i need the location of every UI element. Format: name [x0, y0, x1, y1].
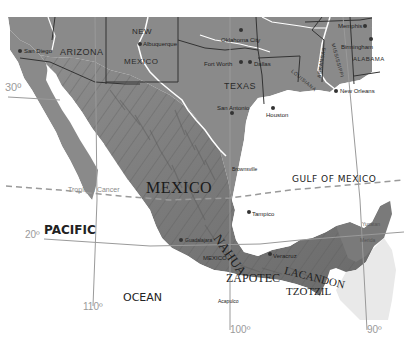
label-houston: Houston [266, 112, 288, 118]
label-tzotzil: TZOTZIL [286, 286, 331, 297]
label-guadalajara: Guadalajara [185, 238, 212, 243]
label-veracruz: Veracruz [273, 253, 297, 259]
map: ARIZONA NEW MEXICO TEXAS LOUISIANA ARKAN… [0, 0, 404, 343]
city-dot-new-orleans [334, 89, 338, 93]
label-tropic-of-cancer: Tropic of Cancer [68, 186, 119, 193]
label-birmingham: Birmingham [341, 44, 373, 50]
label-memphis: Memphis [338, 23, 362, 29]
city-dot-birmingham [369, 37, 373, 41]
label-merida: Merida [360, 238, 375, 243]
label-alabama: ALABAMA [353, 56, 385, 62]
city-dot-houston [271, 106, 275, 110]
label-albuquerque: Albuquerque [143, 41, 177, 47]
city-dot-dallas [248, 60, 252, 64]
label-acapulco: Acapulco [218, 299, 239, 304]
label-texas: TEXAS [224, 82, 256, 91]
label-yucatan: Yucatan [362, 222, 380, 227]
label-fort-worth: Fort Worth [204, 61, 232, 67]
label-lat-30: 30º [5, 82, 21, 93]
label-new-orleans: New Orleans [340, 88, 375, 94]
label-lon-110: 110º [83, 302, 103, 312]
label-arizona: ARIZONA [60, 48, 104, 57]
label-lon-100: 100º [230, 325, 250, 335]
city-dot-oklahoma-city [239, 28, 243, 32]
label-lat-20: 20º [25, 230, 40, 240]
label-tampico: Tampico [252, 211, 274, 217]
city-dot-san-diego [18, 49, 22, 53]
city-dot-san-antonio [230, 111, 234, 115]
city-dot-albuquerque [138, 42, 142, 46]
city-dot-veracruz [268, 252, 272, 256]
label-zapotec: ZAPOTEC [226, 272, 280, 284]
city-dot-tampico [247, 210, 251, 214]
label-brownsville: Brownsville [232, 167, 257, 172]
label-pacific: PACIFIC [44, 224, 96, 236]
label-san-antonio: San Antonio [217, 105, 249, 111]
label-san-diego: San Diego [24, 48, 52, 54]
label-lon-90: 90º [367, 325, 382, 335]
city-dot-guadalajara [179, 238, 183, 242]
label-new: NEW [132, 28, 152, 36]
label-new-mexico: MEXICO [124, 58, 159, 66]
label-oklahoma-city: Oklahoma City [221, 37, 260, 43]
label-mexico: MEXICO [146, 180, 212, 196]
city-dot-fort-worth [239, 60, 243, 64]
city-dot-memphis [363, 24, 367, 28]
label-dallas: Dallas [254, 61, 271, 67]
label-gulf-of-mexico: GULF OF MEXICO [292, 175, 376, 184]
label-ocean: OCEAN [123, 292, 162, 303]
